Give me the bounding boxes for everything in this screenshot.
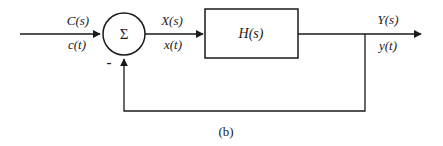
transfer-function-label: H(s) — [238, 26, 264, 42]
feedback-minus-sign: - — [107, 54, 112, 70]
input-signal-s-label: C(s) — [67, 13, 89, 28]
figure-caption: (b) — [218, 124, 233, 139]
diagram-svg: Σ H(s) - C(s) c(t) X(s) x(t) Y(s) y(t) (… — [0, 0, 443, 146]
output-signal-s-label: Y(s) — [378, 12, 399, 27]
output-signal-t-label: y(t) — [377, 38, 397, 53]
error-signal-t-label: x(t) — [163, 37, 182, 52]
summing-junction-symbol: Σ — [120, 26, 129, 42]
block-diagram-figure: Σ H(s) - C(s) c(t) X(s) x(t) Y(s) y(t) (… — [0, 0, 443, 146]
input-signal-t-label: c(t) — [68, 37, 86, 52]
error-signal-s-label: X(s) — [160, 13, 183, 28]
